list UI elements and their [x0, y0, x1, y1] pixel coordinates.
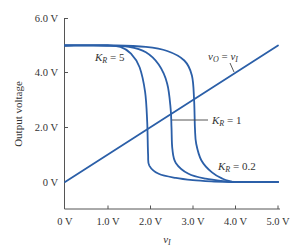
x-tick-label: 4.0 V	[224, 216, 248, 227]
x-axis-title: vI	[163, 233, 171, 247]
x-tick-label: 0 V	[57, 216, 73, 227]
x-tick-label: 2.0 V	[139, 216, 163, 227]
y-tick-labels: 6.0 V 4.0 V 2.0 V 0 V	[35, 13, 59, 188]
y-axis-title: Output voltage	[12, 81, 24, 147]
x-tick-labels: 0 V 1.0 V 2.0 V 3.0 V 4.0 V 5.0 V	[57, 216, 290, 227]
x-tick-label: 3.0 V	[181, 216, 205, 227]
voltage-transfer-chart: 6.0 V 4.0 V 2.0 V 0 V 0 V 1.0 V 2.0 V 3.…	[0, 0, 308, 249]
y-tick-label: 4.0 V	[35, 67, 59, 78]
label-vo-equals-vi: vO = vI	[208, 50, 238, 64]
y-tick-label: 2.0 V	[35, 122, 59, 133]
label-kr1: KR = 1	[211, 114, 241, 128]
vovi-leader-line	[230, 63, 234, 72]
x-tick-label: 1.0 V	[96, 216, 120, 227]
label-kr02: KR = 0.2	[217, 160, 256, 174]
label-kr5: KR = 5	[94, 51, 125, 65]
y-tick-label: 0 V	[43, 177, 59, 188]
x-tick-label: 5.0 V	[266, 216, 290, 227]
y-tick-label: 6.0 V	[35, 13, 59, 24]
